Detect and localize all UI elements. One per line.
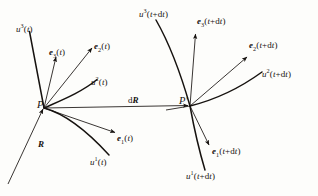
frame-diagram-svg xyxy=(0,0,318,196)
dR-vector xyxy=(44,106,188,109)
e1-vector-tdt xyxy=(190,106,209,145)
label-u2-tdt: u2(t+dt) xyxy=(262,70,291,79)
label-e3-tdt: e3(t+dt) xyxy=(197,17,226,26)
label-e1-tdt: e1(t+dt) xyxy=(212,147,241,156)
label-u3-t: u3(t) xyxy=(16,25,33,34)
label-R: R xyxy=(38,140,44,149)
u3-curve-tdt xyxy=(156,20,190,106)
frame-at-Pprime xyxy=(156,20,262,170)
u2-curve-t xyxy=(44,80,97,109)
e2-vector-tdt xyxy=(190,57,247,106)
label-e1-t: e1(t) xyxy=(117,134,133,143)
label-dR: dR xyxy=(128,96,139,105)
u3-curve-t xyxy=(30,32,45,109)
point-label-Pprime: P′ xyxy=(179,96,188,107)
pprime-tick-left xyxy=(166,106,190,110)
e3-vector-tdt xyxy=(190,34,196,106)
u2-curve-tdt xyxy=(190,72,262,106)
figure-container: P P′ u3(t) e3(t) e2(t) u2(t) dR e1(t) u1… xyxy=(0,0,318,196)
e1-vector-t xyxy=(44,108,115,133)
label-e2-tdt: e2(t+dt) xyxy=(249,41,278,50)
label-e2-t: e2(t) xyxy=(94,42,110,51)
u1-curve-t xyxy=(44,108,109,155)
label-u3-tdt: u3(t+dt) xyxy=(139,10,168,19)
label-u2-t: u2(t) xyxy=(91,78,108,87)
label-e3-t: e3(t) xyxy=(49,48,65,57)
label-u1-tdt: u1(t+dt) xyxy=(186,172,215,181)
point-label-P: P xyxy=(37,100,44,111)
label-u1-t: u1(t) xyxy=(90,158,107,167)
u1-curve-tdt xyxy=(190,106,205,170)
